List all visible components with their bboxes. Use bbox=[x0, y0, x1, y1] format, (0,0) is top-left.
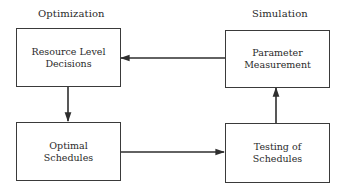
node-line: Resource Level bbox=[32, 46, 106, 58]
optimal-schedules-text: Optimal Schedules bbox=[44, 140, 93, 164]
testing-of-schedules-text: Testing of Schedules bbox=[253, 141, 302, 165]
resource-level-decisions-box: Resource Level Decisions bbox=[16, 28, 121, 87]
parameter-measurement-text: Parameter Measurement bbox=[244, 47, 311, 71]
node-line: Testing of bbox=[254, 141, 301, 153]
testing-of-schedules-box: Testing of Schedules bbox=[225, 123, 330, 183]
resource-level-decisions-text: Resource Level Decisions bbox=[32, 46, 106, 70]
node-line: Schedules bbox=[44, 152, 93, 164]
parameter-measurement-box: Parameter Measurement bbox=[225, 30, 330, 88]
node-line: Measurement bbox=[244, 59, 311, 71]
node-line: Schedules bbox=[253, 153, 302, 165]
node-line: Optimal bbox=[49, 140, 87, 152]
optimal-schedules-box: Optimal Schedules bbox=[16, 122, 121, 181]
node-line: Parameter bbox=[252, 47, 302, 59]
node-line: Decisions bbox=[45, 58, 91, 70]
